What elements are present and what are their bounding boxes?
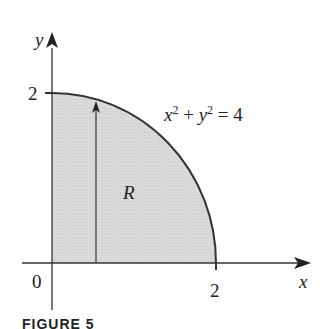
x-tick-label: 2 bbox=[210, 281, 220, 300]
diagram-canvas bbox=[0, 0, 327, 329]
y-axis-arrow-icon bbox=[46, 32, 58, 48]
figure-caption: FIGURE 5 bbox=[22, 316, 95, 329]
region-label: R bbox=[123, 183, 135, 202]
origin-label: 0 bbox=[32, 272, 42, 291]
x-axis-label: x bbox=[299, 272, 307, 291]
y-axis-label: y bbox=[35, 30, 43, 49]
eq-rhs: = 4 bbox=[218, 104, 243, 125]
eq-y: y bbox=[199, 104, 207, 125]
eq-y-exp: 2 bbox=[207, 103, 213, 117]
curve-equation: x2 + y2 = 4 bbox=[164, 104, 243, 124]
eq-plus: + bbox=[183, 104, 194, 125]
eq-x-exp: 2 bbox=[172, 103, 178, 117]
y-tick-label: 2 bbox=[28, 84, 38, 103]
